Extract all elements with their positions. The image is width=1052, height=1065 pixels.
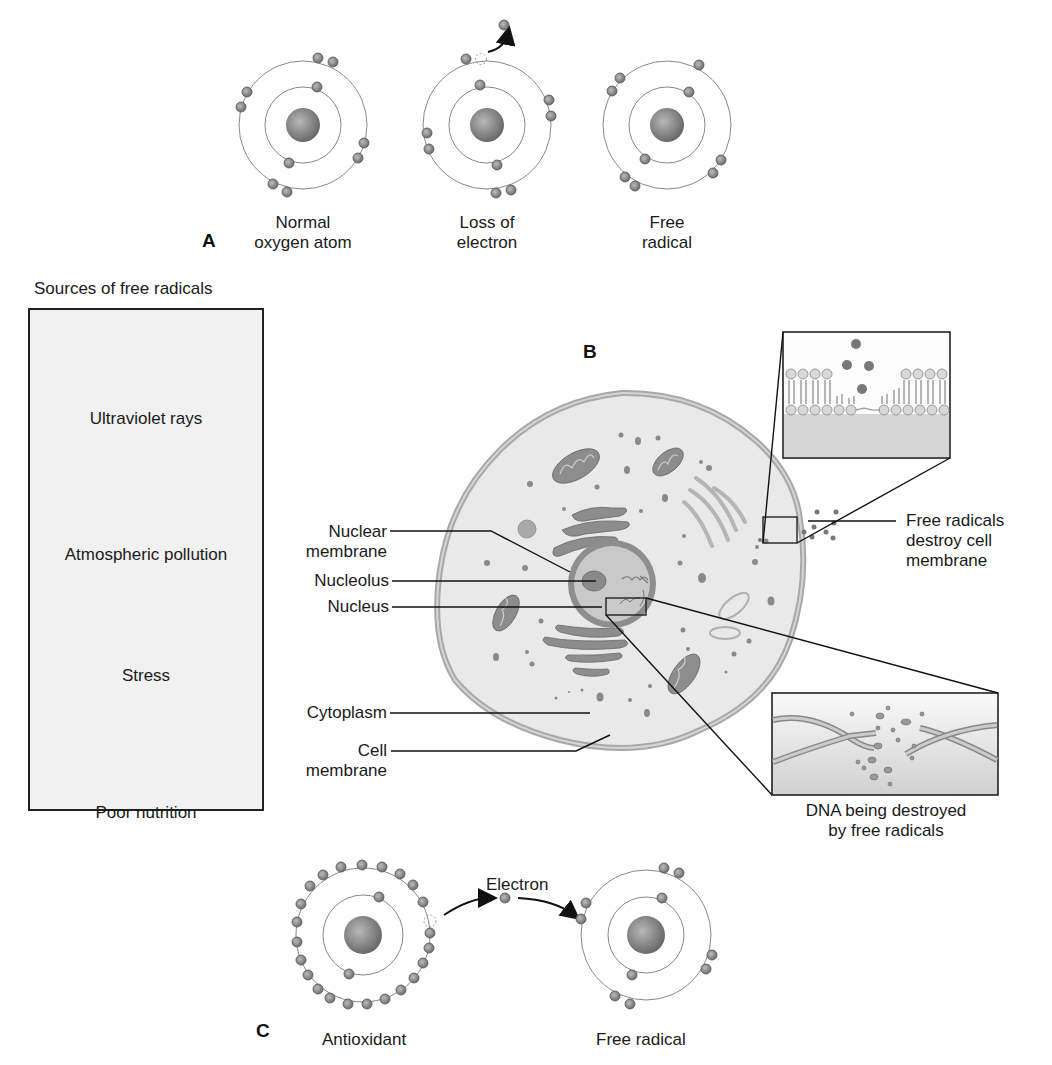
atom-label-free-radical: Free radical (627, 213, 707, 253)
label-electron: Electron (486, 875, 548, 895)
source-label-nutrition: Poor nutrition (30, 803, 262, 823)
atom-label-line: Loss of (447, 213, 527, 233)
source-label-uv: Ultraviolet rays (30, 409, 262, 429)
atom-label-loss: Loss of electron (447, 213, 527, 253)
arrow-to-electron (444, 898, 490, 915)
atom-free-radical-c (576, 863, 717, 1009)
atom-label-normal: Normal oxygen atom (243, 213, 363, 253)
label-dna-destroyed: DNA being destroyed by free radicals (766, 801, 1006, 841)
atom-label-line: electron (447, 233, 527, 253)
label-nucleolus: Nucleolus (270, 571, 389, 591)
arrow-to-free-radical (518, 898, 574, 915)
atom-label-line: radical (627, 233, 707, 253)
atom-antioxidant (292, 860, 436, 1009)
label-nuclear-membrane: Nuclear membrane (270, 522, 387, 562)
panel-letter-a: A (202, 230, 216, 252)
label-line: Nuclear (270, 522, 387, 542)
label-cell-membrane: Cell membrane (270, 741, 387, 781)
label-line: DNA being destroyed (766, 801, 1006, 821)
panel-letter-b: B (583, 341, 597, 363)
label-line: membrane (270, 542, 387, 562)
label-free-radicals-destroy-membrane: Free radicals destroy cell membrane (906, 511, 1004, 571)
source-label-pollution: Atmospheric pollution (30, 545, 262, 565)
atom-label-line: Free (627, 213, 707, 233)
atom-loss-of-electron (422, 20, 556, 198)
label-line: membrane (906, 551, 1004, 571)
panel-letter-c: C (256, 1020, 270, 1042)
label-line: Free radicals (906, 511, 1004, 531)
label-line: destroy cell (906, 531, 1004, 551)
membrane-inset (783, 332, 950, 458)
label-free-radical-c: Free radical (596, 1030, 686, 1050)
source-label-stress: Stress (30, 666, 262, 686)
dna-inset (772, 693, 998, 795)
label-cytoplasm: Cytoplasm (260, 703, 387, 723)
atom-normal-oxygen (236, 53, 369, 197)
sources-title: Sources of free radicals (34, 279, 213, 299)
label-nucleus: Nucleus (270, 597, 389, 617)
atom-label-line: oxygen atom (243, 233, 363, 253)
atom-label-line: Normal (243, 213, 363, 233)
label-antioxidant: Antioxidant (322, 1030, 406, 1050)
label-line: membrane (270, 761, 387, 781)
label-line: Cell (270, 741, 387, 761)
label-line: by free radicals (766, 821, 1006, 841)
atom-free-radical (603, 60, 731, 191)
